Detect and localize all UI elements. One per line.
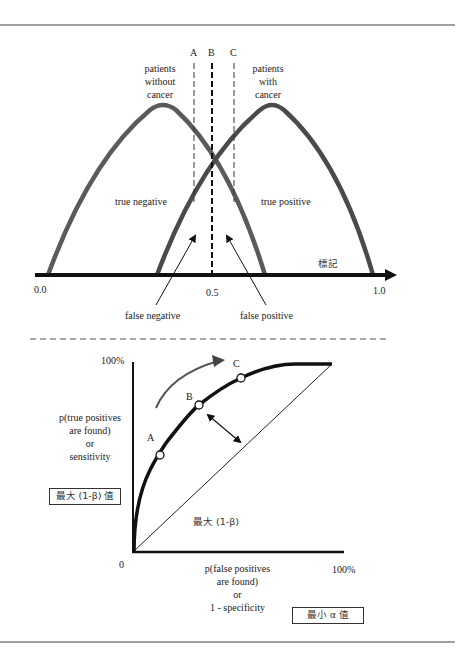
group-label-without-cancer: patients without cancer xyxy=(135,62,185,101)
roc-y-axis-label: p(true positives are found) or sensitivi… xyxy=(50,411,130,463)
roc-x-axis-label: p(false positives are found) or 1 - spec… xyxy=(195,562,280,614)
false-negative-label: false negative xyxy=(125,309,180,322)
distribution-without-cancer xyxy=(48,105,265,275)
roc-y-top-tick: 100% xyxy=(101,354,124,367)
roc-inner-label: 最大 (1-β) xyxy=(193,515,239,528)
marker-axis-label: 標記 xyxy=(318,257,338,270)
roc-point-b xyxy=(195,401,203,409)
marker-axis-arrowhead xyxy=(385,269,397,281)
max-power-box: 最大 (1-β) 值 xyxy=(49,488,121,505)
roc-point-label-c: C xyxy=(233,357,240,370)
roc-origin-tick: 0 xyxy=(119,558,124,571)
region-true-positive: true positive xyxy=(261,195,311,208)
axis-tick-0-5: 0.5 xyxy=(206,286,219,299)
region-true-negative: true negative xyxy=(115,195,167,208)
false-negative-pointer xyxy=(156,236,195,305)
false-positive-label: false positive xyxy=(240,309,293,322)
group-label-with-cancer: patients with cancer xyxy=(243,62,293,101)
roc-point-label-a: A xyxy=(147,431,154,444)
diagram-graphics xyxy=(0,0,459,653)
axis-tick-0: 0.0 xyxy=(34,283,47,296)
distribution-with-cancer xyxy=(157,105,373,275)
threshold-label-b: B xyxy=(208,46,215,59)
roc-x-right-tick: 100% xyxy=(332,563,355,576)
roc-point-c xyxy=(237,374,245,382)
roc-point-a xyxy=(156,451,164,459)
min-alpha-box: 最小 α 值 xyxy=(292,607,364,624)
false-positive-pointer xyxy=(227,236,266,305)
threshold-label-c: C xyxy=(230,46,237,59)
roc-point-label-b: B xyxy=(186,390,193,403)
threshold-label-a: A xyxy=(190,46,197,59)
direction-arrowhead xyxy=(212,355,225,367)
distance-arrow xyxy=(208,415,240,442)
axis-tick-1: 1.0 xyxy=(373,284,386,297)
